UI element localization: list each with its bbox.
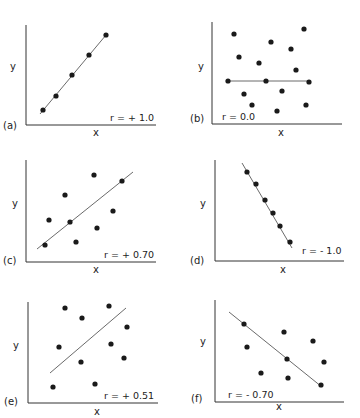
panel-tag: (b) <box>190 113 204 124</box>
data-points <box>244 169 292 244</box>
y-axis-label: y <box>12 198 18 209</box>
panel-tag: (c) <box>3 255 16 266</box>
r-value-label: r = + 0.51 <box>104 390 154 401</box>
x-axis-label: x <box>94 406 100 417</box>
r-value-label: r = + 1.0 <box>110 112 154 123</box>
panel-tag: (f) <box>191 393 202 404</box>
r-value-label: r = - 0.70 <box>228 389 274 400</box>
x-axis-label: x <box>93 264 99 275</box>
regression-line <box>50 308 126 373</box>
panel-tag: (d) <box>190 255 204 266</box>
x-axis-label: x <box>278 127 284 138</box>
panel-tag: (e) <box>4 396 18 407</box>
correlation-figure: y x (a) r = + 1.0 y x (b) r = 0.0 y x (c… <box>0 0 360 418</box>
r-value-label: r = - 1.0 <box>302 245 341 256</box>
regression-line <box>37 172 133 249</box>
data-points <box>241 321 326 387</box>
r-value-label: r = + 0.70 <box>104 249 154 260</box>
data-points <box>225 26 311 113</box>
panel-f: y x (f) r = - 0.70 <box>191 300 344 412</box>
x-axis-label: x <box>280 264 286 275</box>
data-points <box>42 172 124 247</box>
y-axis-label: y <box>10 61 16 72</box>
x-axis-label: x <box>93 127 99 138</box>
panel-a: y x (a) r = + 1.0 <box>3 25 156 138</box>
y-axis-label: y <box>13 340 19 351</box>
panel-d: y x (d) r = - 1.0 <box>190 160 344 275</box>
panel-c: y x (c) r = + 0.70 <box>3 160 156 275</box>
data-points <box>50 303 129 389</box>
panel-e: y x (e) r = + 0.51 <box>4 302 158 417</box>
y-axis-label: y <box>198 61 204 72</box>
panel-b: y x (b) r = 0.0 <box>190 22 342 138</box>
r-value-label: r = 0.0 <box>222 111 255 122</box>
regression-line <box>242 163 292 248</box>
panel-tag: (a) <box>3 120 17 131</box>
y-axis-label: y <box>200 198 206 209</box>
y-axis-label: y <box>200 336 206 347</box>
x-axis-label: x <box>276 401 282 412</box>
